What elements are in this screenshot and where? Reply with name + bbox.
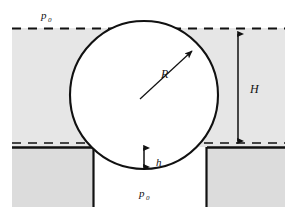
label-height-h: h xyxy=(156,156,162,168)
label-pressure-top-symbol: p xyxy=(40,9,47,21)
label-pressure-bottom-subscript: 0 xyxy=(146,194,150,202)
wall-block-right xyxy=(207,147,285,207)
hydrostatics-diagram: p 0 R H h p 0 xyxy=(0,0,297,216)
label-radius: R xyxy=(160,67,169,81)
figure-container: p 0 R H h p 0 xyxy=(0,0,297,216)
label-height-H: H xyxy=(249,82,260,96)
wall-block-left xyxy=(12,147,93,207)
label-pressure-top-subscript: 0 xyxy=(48,16,52,24)
label-pressure-bottom-symbol: p xyxy=(138,187,145,199)
